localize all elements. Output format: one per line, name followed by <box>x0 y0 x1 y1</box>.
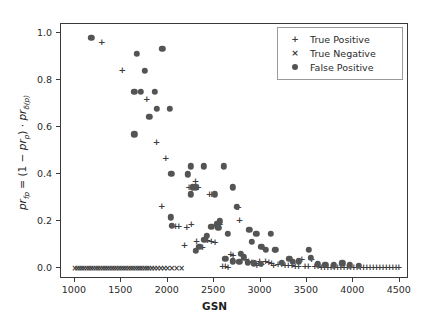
x-tick <box>120 278 121 282</box>
data-point-circle <box>88 34 94 40</box>
x-tick <box>167 278 168 282</box>
x-tick-label: 3500 <box>294 284 318 295</box>
data-point-plus: + <box>180 241 189 250</box>
data-point-circle <box>184 171 190 177</box>
y-tick-label: 0.8 <box>0 74 52 85</box>
data-point-circle <box>225 230 231 236</box>
data-point-circle <box>188 191 194 197</box>
y-tick-label: 1.0 <box>0 27 52 38</box>
data-point-circle <box>262 246 268 252</box>
data-point-circle <box>229 184 235 190</box>
data-point-plus: + <box>161 154 170 163</box>
data-point-plus: + <box>152 137 161 146</box>
data-point-plus: + <box>235 216 244 225</box>
data-point-circle <box>188 163 194 169</box>
data-point-circle <box>159 45 165 51</box>
data-point-circle <box>229 258 235 264</box>
data-point-plus: + <box>218 261 227 270</box>
y-tick <box>56 220 60 221</box>
data-point-plus: + <box>269 260 278 269</box>
x-tick <box>399 278 400 282</box>
x-axis-label: GSN <box>0 300 429 312</box>
legend: + True Positive × True Negative False Po… <box>277 27 403 80</box>
data-point-circle <box>153 105 159 111</box>
y-tick <box>56 173 60 174</box>
data-point-circle <box>249 239 255 245</box>
y-tick <box>56 79 60 80</box>
y-tick <box>56 267 60 268</box>
cross-icon: × <box>284 49 306 58</box>
x-tick-label: 3000 <box>247 284 271 295</box>
data-point-circle <box>253 230 259 236</box>
legend-item-false-positive: False Positive <box>284 60 396 74</box>
data-point-circle <box>131 88 137 94</box>
x-tick <box>352 278 353 282</box>
data-point-circle <box>221 163 227 169</box>
data-point-plus: + <box>118 65 127 74</box>
data-point-circle <box>142 67 148 73</box>
x-tick-label: 2500 <box>201 284 225 295</box>
x-tick <box>306 278 307 282</box>
data-point-circle <box>167 105 173 111</box>
y-tick-label: 0.6 <box>0 121 52 132</box>
data-point-plus: + <box>182 222 191 231</box>
legend-item-true-positive: + True Positive <box>284 32 396 46</box>
data-point-plus: + <box>97 37 106 46</box>
legend-label-true-negative: True Negative <box>306 48 376 59</box>
legend-label-false-positive: False Positive <box>306 62 374 73</box>
x-tick-label: 1000 <box>62 284 86 295</box>
data-point-circle <box>236 259 242 265</box>
data-point-circle <box>133 51 139 57</box>
x-tick-label: 2000 <box>155 284 179 295</box>
data-point-cross: × <box>177 264 186 273</box>
x-tick-label: 1500 <box>108 284 132 295</box>
data-point-circle <box>146 114 152 120</box>
y-axis-label: prfp = (1 − prp) · prδ(p) <box>16 95 31 210</box>
data-point-circle <box>212 191 218 197</box>
y-tick-label: 0.2 <box>0 215 52 226</box>
x-tick-label: 4500 <box>387 284 411 295</box>
x-tick <box>213 278 214 282</box>
data-point-circle <box>246 226 252 232</box>
data-point-plus: + <box>142 95 151 104</box>
y-tick-label: 0.0 <box>0 262 52 273</box>
y-tick <box>56 126 60 127</box>
scatter-plot-figure: prfp = (1 − prp) · prδ(p) ++++++++++++++… <box>0 0 429 329</box>
data-point-circle <box>192 248 198 254</box>
y-tick-label: 0.4 <box>0 168 52 179</box>
data-point-circle <box>152 88 158 94</box>
data-point-plus: + <box>157 202 166 211</box>
data-point-circle <box>201 163 207 169</box>
legend-label-true-positive: True Positive <box>306 34 370 45</box>
legend-item-true-negative: × True Negative <box>284 46 396 60</box>
x-tick-label: 4000 <box>340 284 364 295</box>
data-point-circle <box>168 171 174 177</box>
data-point-plus: + <box>211 238 220 247</box>
data-point-circle <box>268 230 274 236</box>
data-point-circle <box>131 131 137 137</box>
x-tick <box>260 278 261 282</box>
data-point-plus: + <box>394 263 403 272</box>
y-tick <box>56 32 60 33</box>
plus-icon: + <box>284 35 306 44</box>
circle-icon <box>284 63 306 72</box>
x-tick <box>74 278 75 282</box>
